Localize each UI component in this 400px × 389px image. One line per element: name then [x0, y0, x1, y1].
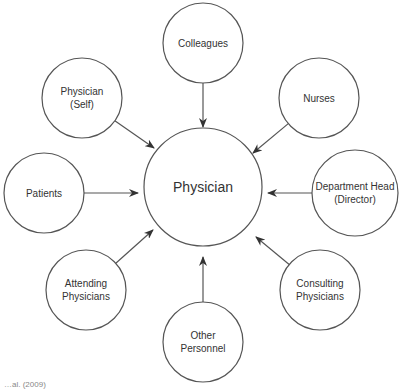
- arrow-nurses-to-physician: [253, 124, 288, 153]
- node-consulting-physicians: ConsultingPhysicians: [280, 250, 360, 330]
- node-circle: [163, 302, 243, 382]
- node-department-head: Department Head(Director): [312, 150, 398, 236]
- arrow-consulting-physicians-to-physician: [256, 237, 289, 264]
- source-footnote: …al. (2009): [4, 380, 46, 389]
- node-circle: [312, 150, 398, 236]
- node-patients: Patients: [4, 153, 84, 233]
- node-label: Physicians: [62, 291, 110, 302]
- node-circle: [42, 58, 122, 138]
- node-label: Other: [190, 330, 216, 341]
- node-label: Nurses: [303, 93, 335, 104]
- node-label: Consulting: [296, 278, 343, 289]
- node-label: Personnel: [180, 343, 225, 354]
- node-circle: [280, 250, 360, 330]
- node-other-personnel: OtherPersonnel: [163, 302, 243, 382]
- node-label: Department Head: [316, 181, 395, 192]
- node-nurses: Nurses: [279, 58, 359, 138]
- node-label: (Director): [334, 194, 376, 205]
- node-label: Attending: [65, 278, 107, 289]
- arrow-attending-physicians-to-physician: [116, 230, 153, 263]
- center-node-label: Physician: [173, 179, 233, 195]
- node-physician-self: Physician(Self): [42, 58, 122, 138]
- arrow-physician-self-to-physician: [115, 121, 154, 148]
- node-colleagues: Colleagues: [163, 3, 243, 83]
- node-attending-physicians: AttendingPhysicians: [46, 250, 126, 330]
- node-label: Colleagues: [178, 38, 228, 49]
- node-circle: [46, 250, 126, 330]
- node-label: Patients: [26, 188, 62, 199]
- node-label: (Self): [70, 99, 94, 110]
- node-label: Physician: [61, 86, 104, 97]
- center-node: Physician: [144, 128, 262, 246]
- node-label: Physicians: [296, 291, 344, 302]
